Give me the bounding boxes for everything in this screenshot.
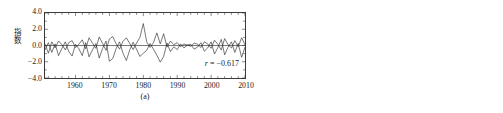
y-tick-label: 2.0 (32, 25, 42, 33)
x-tick-label: 2000 (204, 81, 220, 90)
x-tick-label: 1980 (135, 81, 151, 90)
chart-svg-a (45, 13, 245, 78)
y-tick-label: 0.0 (32, 42, 42, 50)
figure-two-panel-timeseries: 指数 −4.0−2.00.02.04.0 r = −0.617 19601970… (0, 0, 503, 113)
y-tick-label: 4.0 (32, 8, 42, 16)
y-tick-labels-a: −4.0−2.00.02.04.0 (14, 0, 42, 113)
plot-area-a: r = −0.617 (44, 12, 246, 79)
panel-a: 指数 −4.0−2.00.02.04.0 r = −0.617 19601970… (0, 0, 252, 113)
correlation-value-a: = −0.617 (208, 59, 239, 68)
y-tick-label: −2.0 (28, 58, 42, 66)
y-tick-label: −4.0 (28, 75, 42, 83)
x-tick-label: 1970 (101, 81, 117, 90)
panel-caption-a: (a) (44, 92, 246, 102)
x-tick-label: 1990 (170, 81, 186, 90)
correlation-label-a: r = −0.617 (205, 59, 239, 68)
x-tick-label: 1960 (67, 81, 83, 90)
panel-b: 指数 −4.0−2.00.02.04.0 r = 0.697 196019701… (251, 0, 503, 113)
series-line-1 (45, 24, 245, 54)
